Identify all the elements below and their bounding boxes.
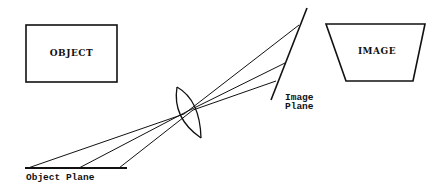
object-box-label: OBJECT (50, 48, 93, 58)
optics-diagram: OBJECT IMAGE Object Plane Image Plane (0, 0, 442, 194)
ray-2 (79, 63, 285, 168)
image-plane-label-line2: Plane (285, 101, 314, 112)
image-plane-line (271, 8, 307, 100)
ray-3 (119, 81, 276, 168)
image-box-label: IMAGE (358, 46, 396, 56)
object-plane-label: Object Plane (26, 172, 95, 183)
lens (176, 87, 201, 138)
rays (28, 25, 299, 168)
ray-1 (28, 25, 299, 168)
image-box: IMAGE (326, 24, 425, 81)
object-box: OBJECT (26, 25, 117, 82)
